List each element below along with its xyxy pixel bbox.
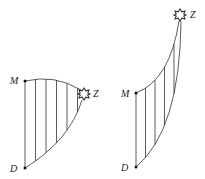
right-label-d: D xyxy=(120,162,129,173)
diagram-canvas: M D Z M D Z xyxy=(0,0,205,179)
left-bottom-arc xyxy=(25,100,82,168)
right-hatch-lines xyxy=(146,44,175,157)
right-point-m xyxy=(135,92,138,95)
left-top-arc xyxy=(25,79,81,90)
left-label-m: M xyxy=(9,75,19,86)
left-sun-icon xyxy=(78,88,90,100)
left-diagram: M D Z xyxy=(9,75,99,174)
left-point-d xyxy=(24,167,27,170)
right-point-d xyxy=(135,166,138,169)
right-top-arc xyxy=(136,21,179,93)
right-sun-icon xyxy=(174,9,186,21)
right-label-m: M xyxy=(120,88,130,99)
left-label-z: Z xyxy=(93,88,99,99)
left-hatch-lines xyxy=(36,79,78,161)
left-label-d: D xyxy=(9,163,18,174)
right-diagram: M D Z xyxy=(120,9,196,173)
right-label-z: Z xyxy=(190,9,196,20)
left-point-m xyxy=(24,80,27,83)
